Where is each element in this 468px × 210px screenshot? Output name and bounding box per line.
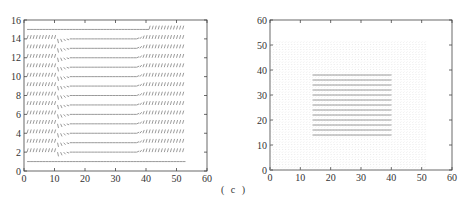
left-ytick-label: 12 — [11, 52, 21, 63]
left-xtick-label: 60 — [202, 173, 212, 184]
left-xtick-label: 0 — [22, 173, 27, 184]
right-xtick-label: 0 — [268, 172, 273, 183]
left-xtick-label: 10 — [50, 173, 60, 184]
left-xtick-label: 20 — [80, 173, 90, 184]
left-ytick-label: 2 — [16, 147, 21, 158]
left-ytick-label: 8 — [16, 90, 21, 101]
left-ytick-label: 10 — [11, 71, 21, 82]
right-ytick-label: 40 — [257, 65, 267, 76]
left-xtick-label: 50 — [172, 173, 182, 184]
right-background-field — [270, 42, 426, 170]
right-xtick-label: 30 — [356, 172, 366, 183]
right-xtick-label: 10 — [295, 172, 305, 183]
left-ytick-label: 4 — [16, 128, 21, 139]
left-xtick-label: 40 — [141, 173, 151, 184]
right-quiver-plot: 01020304050600102030405060 — [234, 0, 468, 185]
right-ytick-label: 10 — [257, 140, 267, 151]
right-ytick-label: 20 — [257, 115, 267, 126]
right-xtick-label: 50 — [417, 172, 427, 183]
left-ytick-label: 6 — [16, 109, 21, 120]
left-vector-field — [27, 26, 185, 162]
left-ytick-label: 0 — [16, 166, 21, 177]
right-ytick-label: 30 — [257, 90, 267, 101]
right-xtick-label: 40 — [386, 172, 396, 183]
left-ytick-label: 14 — [11, 33, 21, 44]
right-plot-canvas: 01020304050600102030405060 — [234, 0, 468, 185]
left-ytick-label: 16 — [11, 15, 21, 26]
right-ytick-label: 50 — [257, 40, 267, 51]
left-plot-canvas: 01020304050600246810121416 — [0, 0, 234, 185]
right-ytick-label: 60 — [257, 15, 267, 26]
right-ytick-label: 0 — [262, 165, 267, 176]
left-xtick-label: 30 — [111, 173, 121, 184]
right-active-field — [312, 75, 391, 135]
right-xtick-label: 60 — [447, 172, 457, 183]
right-xtick-label: 20 — [326, 172, 336, 183]
left-quiver-plot: 01020304050600246810121416 — [0, 0, 234, 185]
figure-caption: ( c ) — [0, 184, 468, 195]
